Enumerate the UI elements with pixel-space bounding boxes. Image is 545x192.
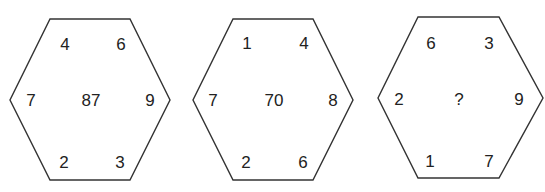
hexagon-2-left-number: 7: [208, 92, 217, 109]
hexagon-3-bottom-left-number: 1: [425, 153, 434, 170]
hexagon-2-top-right-number: 4: [299, 35, 308, 52]
hexagon-2-bottom-right-number: 6: [298, 154, 307, 171]
hexagon-2-bottom-left-number: 2: [241, 154, 250, 171]
hexagon-2-right-number: 8: [328, 92, 337, 109]
hexagon-1-top-left-number: 4: [60, 36, 69, 53]
hexagon-3-bottom-right-number: 7: [484, 153, 493, 170]
hexagon-3-top-right-number: 3: [484, 35, 493, 52]
hexagon-3-top-left-number: 6: [426, 35, 435, 52]
hexagon-3-right-number: 9: [514, 91, 523, 108]
hexagon-1-bottom-left-number: 2: [59, 154, 68, 171]
hexagon-1-right-number: 9: [145, 92, 154, 109]
hexagon-2-center-number: 70: [265, 92, 284, 109]
hexagon-1-top-right-number: 6: [116, 36, 125, 53]
hexagon-3-left-number: 2: [394, 91, 403, 108]
hexagon-1-center-number: 87: [82, 92, 101, 109]
hexagon-3-center-unknown: ?: [454, 91, 463, 108]
hexagon-2-top-left-number: 1: [242, 35, 251, 52]
hexagon-1-left-number: 7: [26, 92, 35, 109]
hexagon-1-bottom-right-number: 3: [115, 154, 124, 171]
